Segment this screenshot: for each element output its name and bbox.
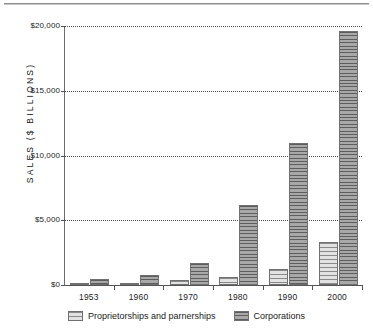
bar-2000-series-0 (319, 242, 338, 285)
bar-2000-series-1 (339, 31, 358, 285)
x-tick-mark (213, 286, 214, 290)
bar-1980-series-0 (219, 277, 238, 285)
chart-legend: Proprietorships and parnershipsCorporati… (0, 311, 373, 321)
bar-1960-series-0 (120, 283, 139, 285)
bar-group-1980 (219, 26, 258, 285)
x-tick-label: 2000 (307, 292, 367, 302)
bars-layer (64, 26, 363, 285)
bar-group-1960 (120, 26, 159, 285)
bar-1990-series-0 (269, 269, 288, 285)
bar-group-1953 (70, 26, 109, 285)
bar-1960-series-1 (140, 275, 159, 285)
legend-item-series-0: Proprietorships and parnerships (68, 311, 216, 321)
legend-swatch-series-0 (68, 311, 83, 321)
bar-1970-series-1 (190, 263, 209, 285)
bar-1980-series-1 (239, 205, 258, 285)
x-tick-mark (312, 286, 313, 290)
legend-item-series-1: Corporations (234, 311, 306, 321)
bar-1953-series-0 (70, 283, 89, 285)
bar-group-1990 (269, 26, 308, 285)
legend-swatch-series-1 (234, 311, 249, 321)
bar-1953-series-1 (90, 279, 109, 285)
y-tick-label: $15,000 (0, 86, 60, 95)
bar-1990-series-1 (289, 143, 308, 285)
y-tick-label: $0 (0, 280, 60, 289)
top-divider-rule (4, 3, 369, 5)
bar-group-1970 (170, 26, 209, 285)
y-tick-label: $5,000 (0, 215, 60, 224)
y-tick-label: $10,000 (0, 151, 60, 160)
bar-1970-series-0 (170, 280, 189, 285)
x-tick-mark (362, 286, 363, 290)
x-tick-mark (163, 286, 164, 290)
legend-label-series-1: Corporations (254, 311, 306, 321)
y-tick-label: $20,000 (0, 21, 60, 30)
legend-label-series-0: Proprietorships and parnerships (88, 311, 216, 321)
y-axis-tick-labels: $0$5,000$10,000$15,000$20,000 (0, 26, 60, 285)
bar-group-2000 (319, 26, 358, 285)
x-tick-mark (263, 286, 264, 290)
x-tick-mark (114, 286, 115, 290)
